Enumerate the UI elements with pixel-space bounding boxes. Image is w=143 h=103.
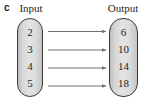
output-value: 10: [110, 43, 137, 55]
output-value: 18: [110, 77, 137, 89]
figure-panel-c: c Input Output 2 3 4 5 6 10 14 18: [0, 0, 143, 103]
input-value: 4: [18, 60, 42, 72]
output-value: 14: [110, 60, 137, 72]
input-value: 3: [18, 43, 42, 55]
input-value: 2: [18, 26, 42, 38]
output-value: 6: [110, 26, 137, 38]
input-value: 5: [18, 77, 42, 89]
input-set-box: 2 3 4 5: [17, 18, 43, 97]
output-set-box: 6 10 14 18: [109, 18, 138, 97]
